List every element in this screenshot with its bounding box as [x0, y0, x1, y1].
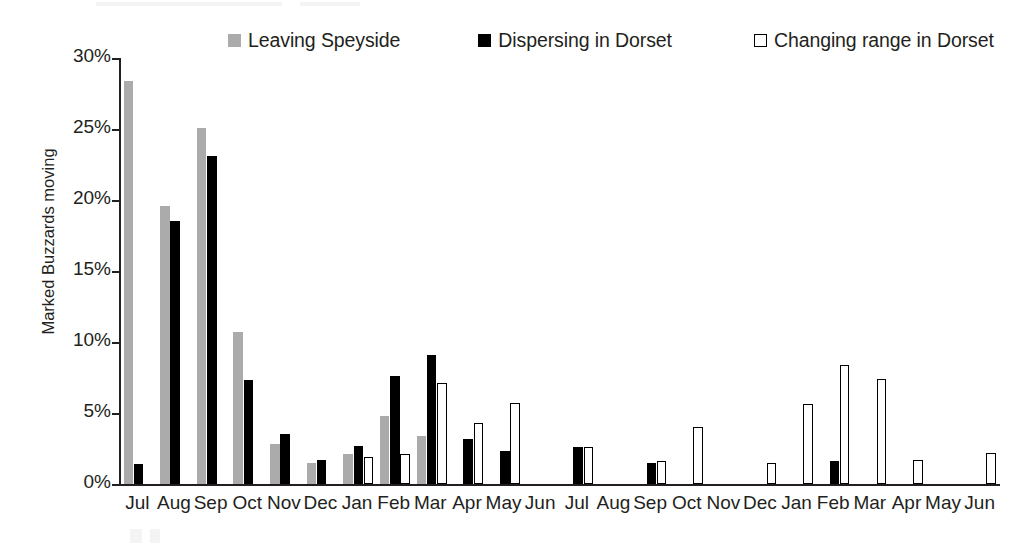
- bar: [427, 355, 437, 484]
- x-tick-label: May: [925, 492, 962, 514]
- x-tick-label: Feb: [815, 492, 852, 514]
- x-tick-label: Oct: [229, 492, 266, 514]
- bar-group: [524, 58, 561, 484]
- bar: [390, 376, 400, 484]
- bar: [270, 444, 280, 484]
- bar-group: [634, 58, 671, 484]
- bar: [647, 463, 657, 484]
- bar-group: [268, 58, 305, 484]
- bar: [573, 447, 583, 484]
- bar: [380, 416, 390, 484]
- bars-layer: [121, 58, 1000, 484]
- y-tick-mark: [112, 413, 119, 415]
- bar-group: [414, 58, 451, 484]
- x-tick-label: Jan: [339, 492, 376, 514]
- y-tick-label: 0%: [41, 471, 111, 493]
- bar-group: [744, 58, 781, 484]
- y-tick-mark: [112, 342, 119, 344]
- bar: [417, 436, 427, 484]
- x-tick-label: Mar: [412, 492, 449, 514]
- x-tick-label: Oct: [668, 492, 705, 514]
- x-tick-label: Apr: [449, 492, 486, 514]
- x-tick-label: Jul: [559, 492, 596, 514]
- bar-group: [927, 58, 964, 484]
- legend-swatch-icon: [478, 34, 491, 47]
- x-tick-label: Aug: [156, 492, 193, 514]
- bar: [657, 461, 667, 484]
- bar: [343, 454, 353, 484]
- legend-label: Leaving Speyside: [248, 29, 400, 52]
- bar: [233, 332, 243, 484]
- x-axis-labels: JulAugSepOctNovDecJanFebMarAprMayJunJulA…: [119, 492, 1000, 522]
- x-tick-label: Mar: [852, 492, 889, 514]
- bar: [437, 383, 447, 484]
- bar: [134, 464, 144, 484]
- bar: [170, 221, 180, 484]
- x-tick-label: Dec: [302, 492, 339, 514]
- x-tick-label: Sep: [192, 492, 229, 514]
- x-tick-label: May: [485, 492, 522, 514]
- bar-group: [194, 58, 231, 484]
- x-tick-label: Sep: [632, 492, 669, 514]
- x-tick-label: Aug: [595, 492, 632, 514]
- bar-group: [854, 58, 891, 484]
- bar: [877, 379, 887, 484]
- bar-group: [341, 58, 378, 484]
- bar: [354, 446, 364, 484]
- bar: [244, 380, 254, 484]
- x-tick-label: Jun: [961, 492, 998, 514]
- bar-group: [890, 58, 927, 484]
- bar-group: [121, 58, 158, 484]
- y-tick-mark: [112, 484, 119, 486]
- bar: [307, 463, 317, 484]
- bar: [317, 460, 327, 484]
- legend-item-1: Dispersing in Dorset: [478, 29, 672, 52]
- bar-group: [451, 58, 488, 484]
- y-tick-label: 20%: [41, 187, 111, 209]
- bar-group: [670, 58, 707, 484]
- y-tick-mark: [112, 58, 119, 60]
- chart-legend: Leaving SpeysideDispersing in DorsetChan…: [228, 26, 958, 54]
- y-tick-label: 30%: [41, 45, 111, 67]
- bar: [124, 81, 134, 484]
- legend-label: Changing range in Dorset: [774, 29, 994, 52]
- bar: [500, 451, 510, 484]
- bar: [767, 463, 777, 484]
- y-tick-mark: [112, 200, 119, 202]
- bar: [280, 434, 290, 484]
- bar: [197, 128, 207, 484]
- bar: [474, 423, 484, 484]
- y-tick-label: 25%: [41, 116, 111, 138]
- bar: [584, 447, 594, 484]
- legend-label: Dispersing in Dorset: [498, 29, 672, 52]
- bar-group: [597, 58, 634, 484]
- legend-swatch-icon: [228, 34, 241, 47]
- bar-group: [561, 58, 598, 484]
- bar-group: [487, 58, 524, 484]
- legend-item-2: Changing range in Dorset: [754, 29, 994, 52]
- y-tick-label: 10%: [41, 329, 111, 351]
- y-tick-mark: [112, 271, 119, 273]
- bar-group: [377, 58, 414, 484]
- bar: [986, 453, 996, 484]
- x-tick-label: Jun: [522, 492, 559, 514]
- bar: [803, 404, 813, 484]
- scan-artifact: [130, 529, 142, 543]
- bar-group: [963, 58, 1000, 484]
- bar-group: [158, 58, 195, 484]
- x-tick-label: Nov: [705, 492, 742, 514]
- bar: [364, 457, 374, 484]
- scan-artifact: [96, 2, 282, 6]
- y-tick: 0%: [119, 484, 126, 486]
- bar-group: [707, 58, 744, 484]
- x-tick-label: Dec: [742, 492, 779, 514]
- bar: [840, 365, 850, 484]
- x-tick-label: Apr: [888, 492, 925, 514]
- bar-chart: Leaving SpeysideDispersing in DorsetChan…: [0, 0, 1020, 547]
- bar: [510, 403, 520, 484]
- bar-group: [231, 58, 268, 484]
- legend-item-0: Leaving Speyside: [228, 29, 400, 52]
- scan-artifact: [300, 2, 360, 6]
- x-tick-label: Feb: [375, 492, 412, 514]
- bar: [463, 439, 473, 484]
